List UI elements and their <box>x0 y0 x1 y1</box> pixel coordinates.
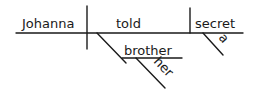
sentence-diagram: Johanna told secret brother a her <box>0 0 258 95</box>
verb-word: told <box>116 16 141 31</box>
subject-word: Johanna <box>21 16 74 31</box>
direct-object-word: secret <box>195 16 235 31</box>
indirect-object-word: brother <box>124 43 173 58</box>
